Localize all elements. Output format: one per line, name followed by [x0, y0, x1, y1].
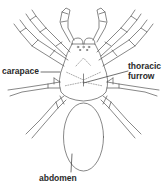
- eyes: [77, 46, 90, 51]
- abdomen-leader-line: [71, 154, 72, 172]
- right-leg-1: [97, 10, 141, 56]
- left-pedipalp: [60, 8, 74, 42]
- chelicerae: [72, 38, 95, 44]
- spider-diagram: [0, 0, 167, 185]
- left-leg-1: [26, 10, 70, 56]
- label-thoracic-furrow-line2: furrow: [128, 72, 154, 81]
- label-abdomen: abdomen: [39, 174, 77, 183]
- abdomen-outline: [64, 103, 104, 171]
- left-leg-3: [8, 78, 60, 96]
- left-leg-4: [26, 96, 66, 138]
- label-thoracic-furrow-line1: thoracic: [128, 62, 161, 71]
- label-carapace: carapace: [2, 67, 39, 76]
- right-leg-4: [101, 96, 141, 138]
- right-pedipalp: [93, 8, 107, 42]
